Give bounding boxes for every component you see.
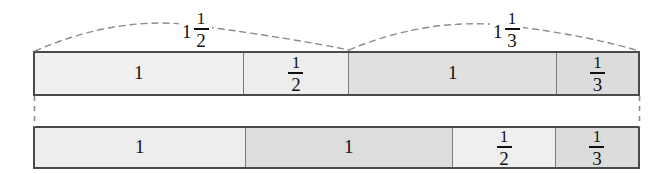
callout-whole-part: 1 — [182, 22, 192, 41]
fraction-numerator: 1 — [292, 54, 301, 72]
top-segment-one-third: 13 — [557, 53, 638, 94]
callout-one-and-one-third: 1 1 3 — [490, 10, 523, 50]
top-segment-one-b: 1 — [349, 53, 557, 94]
bottom-segment-one-half: 12 — [453, 128, 556, 167]
segment-fraction: 13 — [590, 54, 605, 94]
callout-fraction: 1 3 — [505, 10, 520, 50]
segment-whole-value: 1 — [134, 63, 144, 82]
fraction-denominator: 2 — [499, 148, 509, 168]
bottom-segment-one-b: 1 — [246, 128, 454, 167]
segment-whole-value: 1 — [448, 63, 458, 82]
fraction-numerator: 1 — [593, 54, 602, 72]
bottom-segment-one-a: 1 — [35, 128, 246, 167]
segment-fraction: 12 — [497, 128, 512, 168]
callout-one-and-one-half: 1 1 2 — [179, 10, 212, 50]
segment-whole-value: 1 — [344, 137, 354, 156]
segment-fraction: 13 — [589, 128, 604, 168]
fraction-numerator: 1 — [500, 128, 509, 146]
callout-whole-part: 1 — [493, 22, 503, 41]
fraction-denominator: 2 — [291, 74, 301, 94]
fraction-denominator: 3 — [507, 30, 517, 50]
fraction-denominator: 3 — [593, 74, 603, 94]
segment-fraction: 12 — [288, 54, 303, 94]
fraction-numerator: 1 — [508, 10, 517, 28]
fraction-denominator: 3 — [592, 148, 602, 168]
fraction-denominator: 2 — [196, 30, 206, 50]
fraction-diagram: 1 1 2 1 1 3 112113 111213 — [0, 0, 659, 174]
fraction-numerator: 1 — [197, 10, 206, 28]
top-segment-one-half: 12 — [244, 53, 350, 94]
bottom-segment-one-third: 13 — [556, 128, 638, 167]
top-bar: 112113 — [33, 51, 640, 96]
segment-whole-value: 1 — [135, 137, 145, 156]
top-segment-one-a: 1 — [35, 53, 244, 94]
callout-fraction: 1 2 — [194, 10, 209, 50]
bottom-bar: 111213 — [33, 126, 640, 169]
fraction-numerator: 1 — [593, 128, 602, 146]
